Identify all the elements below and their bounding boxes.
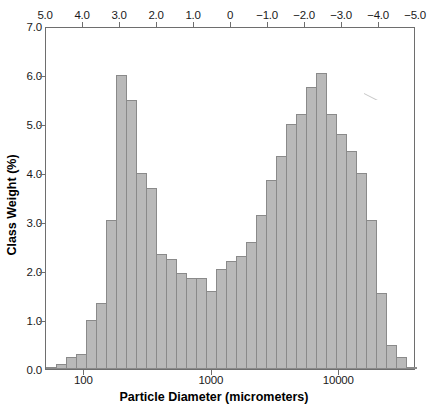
top-axis-tick-mark xyxy=(341,22,342,27)
histogram-bar xyxy=(136,173,147,369)
histogram-bar xyxy=(166,259,177,369)
x-axis-tick-mark xyxy=(211,370,212,375)
top-axis-tick-mark xyxy=(82,22,83,27)
histogram-bar xyxy=(296,114,307,369)
top-axis-tick-mark xyxy=(119,22,120,27)
histogram-bar xyxy=(216,269,227,369)
x-axis-tick-mark xyxy=(83,370,84,375)
histogram-bar xyxy=(96,303,107,369)
top-axis-tick-mark xyxy=(193,22,194,27)
top-axis-tick-mark xyxy=(378,22,379,27)
chart-title xyxy=(0,0,428,2)
histogram-bar xyxy=(386,345,397,370)
top-axis-tick-label: −5.0 xyxy=(391,9,428,21)
histogram-bar xyxy=(396,357,407,369)
y-axis-tick-label: 0.0 xyxy=(10,364,42,376)
histogram-bar xyxy=(356,173,367,369)
top-axis-tick-mark xyxy=(156,22,157,27)
histogram-bar xyxy=(206,291,217,369)
histogram-bar xyxy=(366,220,377,369)
histogram-bar xyxy=(286,124,297,369)
x-axis-tick-mark xyxy=(338,370,339,375)
histogram-bar xyxy=(246,242,257,369)
histogram-bar xyxy=(226,261,237,369)
top-axis-tick-mark xyxy=(304,22,305,27)
plot-area xyxy=(45,27,415,370)
histogram-bar xyxy=(156,254,167,369)
histogram-bar xyxy=(66,357,77,369)
histogram-bar xyxy=(306,87,317,369)
y-axis-tick-mark xyxy=(39,174,45,175)
y-axis-tick-label: 4.0 xyxy=(10,168,42,180)
y-axis-tick-mark xyxy=(39,125,45,126)
y-axis-tick-label: 6.0 xyxy=(10,70,42,82)
top-axis-tick-mark xyxy=(230,22,231,27)
y-axis-tick-mark xyxy=(39,272,45,273)
histogram-bar xyxy=(196,278,207,369)
histogram-bar xyxy=(126,100,137,370)
x-axis-tick-label: 1000 xyxy=(181,374,241,386)
histogram-bar xyxy=(76,354,87,369)
y-axis-tick-mark xyxy=(39,223,45,224)
histogram-bar xyxy=(276,156,287,369)
histogram-bar xyxy=(236,256,247,369)
histogram-bar xyxy=(56,364,67,369)
histogram-bar xyxy=(326,114,337,369)
histogram-bar xyxy=(46,367,57,369)
x-axis-tick-label: 100 xyxy=(53,374,113,386)
y-axis-tick-mark xyxy=(39,76,45,77)
histogram-bar xyxy=(186,278,197,369)
y-axis-tick-label: 7.0 xyxy=(10,21,42,33)
histogram-bar xyxy=(256,215,267,369)
y-axis-tick-label: 2.0 xyxy=(10,266,42,278)
x-axis-tick-label: 10000 xyxy=(308,374,368,386)
y-axis-tick-label: 1.0 xyxy=(10,315,42,327)
y-axis-tick-mark xyxy=(39,321,45,322)
histogram-bar xyxy=(86,320,97,369)
histogram-bars xyxy=(46,28,414,369)
histogram-bar xyxy=(316,73,327,369)
histogram-bar xyxy=(406,367,417,369)
top-axis-tick-mark xyxy=(267,22,268,27)
y-axis-tick-label: 5.0 xyxy=(10,119,42,131)
histogram-bar xyxy=(346,151,357,369)
y-axis-tick-label: 3.0 xyxy=(10,217,42,229)
y-axis-title: Class Weight (%) xyxy=(5,120,19,290)
histogram-bar xyxy=(176,273,187,369)
histogram-bar xyxy=(106,220,117,369)
histogram-bar xyxy=(266,180,277,369)
histogram-bar xyxy=(336,134,347,369)
histogram-bar xyxy=(146,188,157,369)
histogram-bar xyxy=(376,293,387,369)
histogram-bar xyxy=(116,75,127,369)
particle-size-histogram-figure: Class Weight (%) Particle Diameter (micr… xyxy=(0,0,428,407)
x-axis-title: Particle Diameter (micrometers) xyxy=(0,390,428,404)
